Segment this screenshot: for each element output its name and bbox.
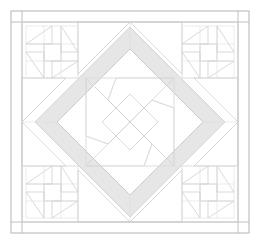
quilt-block-canvas <box>0 0 262 245</box>
quilt-diagram: Quilt Block Pattern Diagram <box>0 0 262 245</box>
